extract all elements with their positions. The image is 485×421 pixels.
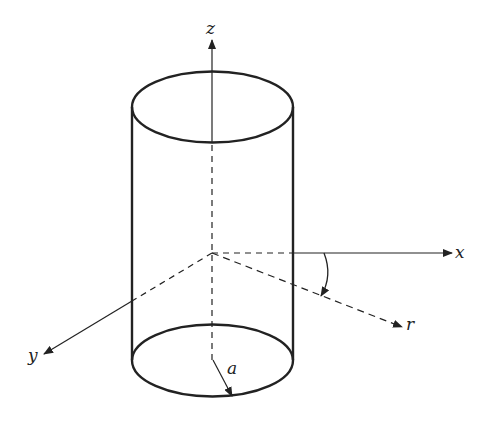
r-label: r <box>406 314 415 334</box>
radius-label: a <box>227 358 237 378</box>
y-axis-hidden <box>132 253 212 301</box>
cylinder-diagram: z x y r a <box>0 0 485 421</box>
angle-phi-arc <box>321 253 328 296</box>
z-label: z <box>205 18 216 38</box>
x-label: x <box>455 242 465 262</box>
y-label: y <box>27 345 38 365</box>
y-axis <box>44 301 132 354</box>
r-axis <box>212 253 402 327</box>
